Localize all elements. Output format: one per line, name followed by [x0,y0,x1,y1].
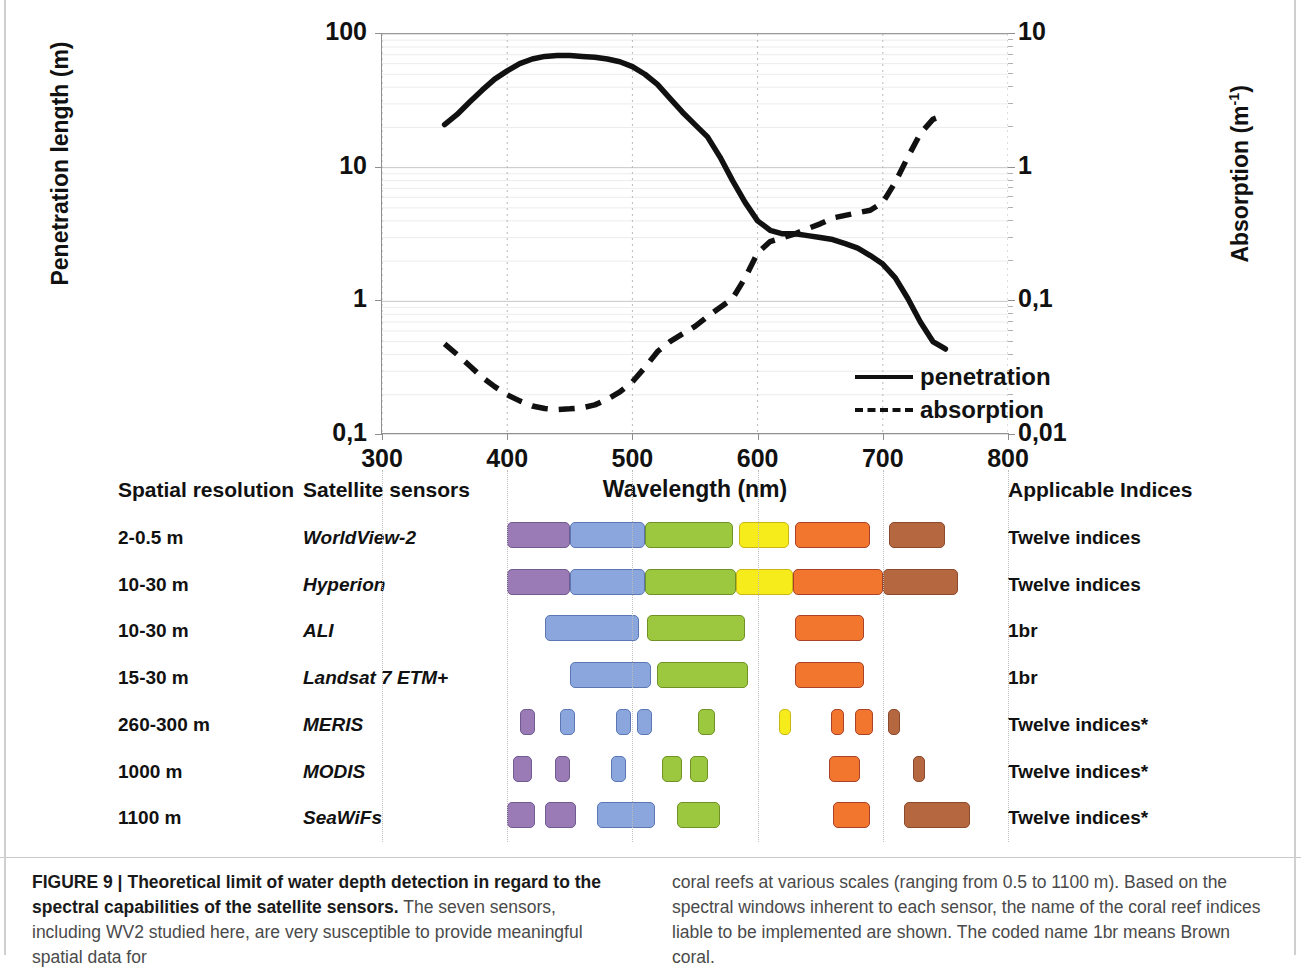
x-tick [632,433,633,440]
spectral-band-green [698,709,716,735]
row-spatial-resolution: 1000 m [118,761,182,783]
y-tick-right-minor [1008,63,1013,64]
spectral-band-purple [507,569,570,595]
row-applicable-indices: Twelve indices [1008,527,1141,549]
table-gridline [1008,470,1009,842]
caption-left-column: FIGURE 9 |Theoretical limit of water dep… [32,870,628,970]
spectral-chart: 0,1110100 0,010,1110 300400500600700800 … [0,0,1301,505]
y-tick-right-minor [1008,321,1013,322]
x-tick [382,433,383,440]
spectral-band-orange [795,662,864,688]
y-tick-right-minor [1008,306,1013,307]
row-sensor-name: MODIS [303,761,365,783]
row-sensor-name: WorldView-2 [303,527,416,549]
x-tick [883,433,884,440]
spectral-band-purple [545,802,576,828]
y-tick-right [1008,33,1015,34]
spectral-band-green [645,522,733,548]
spectral-band-blue [611,756,626,782]
y-tick-right-minor [1008,330,1013,331]
spectral-band-orange [795,615,864,641]
spectral-band-green [677,802,720,828]
row-sensor-name: Hyperion [303,574,385,596]
row-spatial-resolution: 10-30 m [118,574,189,596]
row-applicable-indices: 1br [1008,620,1038,642]
legend-item-absorption: absorption [855,393,1075,426]
y-tick-right-minor [1008,237,1013,238]
spectral-band-blue [597,802,655,828]
table-gridline [883,470,884,842]
y-tick-left [375,167,382,168]
spectral-band-green [690,756,708,782]
y-tick-left [375,434,382,435]
y-ticklabel-left: 100 [247,17,367,46]
spectral-band-green [662,756,682,782]
table-gridline [758,470,759,842]
spectral-band-purple [513,756,532,782]
spectral-band-green [647,615,745,641]
x-axis-line [382,433,1008,434]
y-tick-right-minor [1008,73,1013,74]
y-ticklabel-left: 1 [247,284,367,313]
y-axis-left-line [381,33,382,434]
row-spatial-resolution: 1100 m [118,807,181,829]
column-header-applicable-indices: Applicable Indices [1008,478,1192,502]
legend-label-penetration: penetration [920,365,1051,389]
figure-caption: FIGURE 9 |Theoretical limit of water dep… [0,857,1301,959]
y-tick-right-minor [1008,180,1013,181]
spectral-band-blue [616,709,631,735]
spectral-band-yellow [779,709,792,735]
y-axis-left-title: Penetration length (m) [47,14,74,314]
y-tick-right-minor [1008,313,1013,314]
y-ticklabel-left: 0,1 [247,418,367,447]
y-tick-right-minor [1008,207,1013,208]
y-tick-right-minor [1008,354,1013,355]
spectral-band-orange [831,709,844,735]
chart-legend: penetration absorption [855,360,1075,426]
spectral-band-yellow [739,522,789,548]
y-ticklabel-left: 10 [247,151,367,180]
caption-figure-label: FIGURE 9 | [32,872,122,892]
spectral-band-orange [795,522,870,548]
y-tick-right [1008,434,1015,435]
y-ticklabel-right: 1 [1018,151,1138,180]
row-spatial-resolution: 260-300 m [118,714,210,736]
spectral-band-purple [555,756,570,782]
row-applicable-indices: Twelve indices* [1008,761,1148,783]
spectral-band-blue [570,662,651,688]
y-tick-right-minor [1008,86,1013,87]
spectral-band-blue [570,569,645,595]
row-applicable-indices: Twelve indices [1008,574,1141,596]
row-spatial-resolution: 2-0.5 m [118,527,183,549]
spectral-band-purple [520,709,535,735]
spectral-band-brown [889,522,945,548]
spectral-band-yellow [736,569,792,595]
y-tick-right-minor [1008,173,1013,174]
x-tick [758,433,759,440]
spectral-band-blue [560,709,575,735]
y-tick-right-minor [1008,54,1013,55]
row-applicable-indices: Twelve indices* [1008,714,1148,736]
spectral-band-orange [829,756,860,782]
sensor-band-table: Spatial resolution Satellite sensors App… [0,470,1301,855]
table-gridline [507,470,508,842]
legend-label-absorption: absorption [920,398,1044,422]
spectral-band-green [657,662,747,688]
y-axis-right-title: Absorption (m-1) [1226,24,1254,324]
x-ticklabel: 700 [823,444,943,473]
y-tick-right-minor [1008,196,1013,197]
row-applicable-indices: Twelve indices* [1008,807,1148,829]
column-header-satellite-sensors: Satellite sensors [303,478,470,502]
row-sensor-name: MERIS [303,714,363,736]
y-tick-right-minor [1008,220,1013,221]
spectral-band-blue [545,615,639,641]
spectral-band-blue [637,709,652,735]
table-gridline [632,470,633,842]
spectral-band-brown [904,802,970,828]
y-tick-right-minor [1008,187,1013,188]
spectral-band-orange [833,802,871,828]
spectral-band-orange [855,709,873,735]
row-sensor-name: SeaWiFs [303,807,382,829]
row-spatial-resolution: 15-30 m [118,667,189,689]
